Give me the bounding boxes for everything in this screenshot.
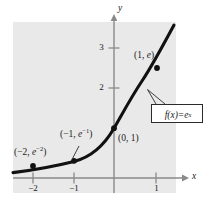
- y-tick-label-three: 3: [97, 43, 106, 52]
- point-label-neg2-x: −2: [17, 147, 27, 157]
- function-callout-text: f(x) = ex: [152, 105, 204, 124]
- x-tick-label-neg1: −1: [66, 184, 82, 193]
- point-label-neg1-x: −1: [63, 129, 73, 139]
- x-tick-label-neg2: −2: [25, 184, 41, 193]
- point-label-one-close: ): [151, 50, 154, 60]
- y-axis-label: y: [118, 4, 122, 14]
- data-point-neg2[interactable]: [30, 163, 36, 169]
- function-callout-box: f(x) = ex: [151, 104, 203, 123]
- exponential-function-figure: y x −2 −1 1 2 3 (−2, e−2) (−1, e−1) (0, …: [0, 0, 206, 208]
- point-label-neg2-close: ): [43, 147, 46, 157]
- point-label-neg2: (−2, e−2): [14, 148, 46, 158]
- point-label-one: (1, e): [134, 51, 154, 61]
- data-point-one[interactable]: [154, 65, 160, 71]
- x-axis-label: x: [192, 172, 196, 182]
- x-tick-label-one: 1: [152, 184, 161, 193]
- point-label-zero: (0, 1): [118, 134, 139, 144]
- data-point-zero[interactable]: [111, 125, 117, 131]
- point-label-neg1-close: ): [89, 129, 92, 139]
- data-point-neg1[interactable]: [71, 158, 77, 164]
- callout-exponent: x: [188, 111, 191, 118]
- y-tick-label-two: 2: [97, 83, 106, 92]
- point-label-neg1: (−1, e−1): [60, 130, 92, 140]
